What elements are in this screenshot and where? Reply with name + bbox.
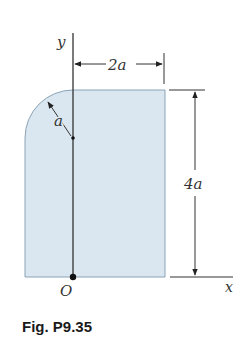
arc-center-point bbox=[71, 136, 75, 140]
shaded-area bbox=[25, 90, 165, 277]
x-axis-label: x bbox=[225, 279, 233, 295]
width-dimension-label: 2a bbox=[107, 56, 127, 74]
area-diagram: y O x 2a 4a a a bbox=[0, 0, 252, 342]
origin-label: O bbox=[60, 282, 72, 300]
y-axis-label: y bbox=[56, 33, 66, 51]
height-dimension-label: 4a bbox=[183, 175, 203, 193]
radius-label-text: a bbox=[54, 112, 63, 130]
origin-point bbox=[70, 274, 76, 280]
figure-caption: Fig. P9.35 bbox=[22, 318, 92, 335]
